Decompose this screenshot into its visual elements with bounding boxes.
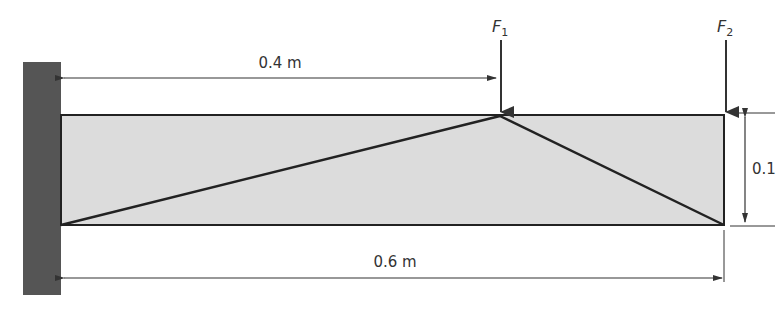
beam-diagram: 0.4 m 0.6 m 0.1 F1 F2 xyxy=(0,0,780,319)
force-f1-label: F1 xyxy=(492,17,508,39)
dimension-height: 0.1 xyxy=(730,113,776,226)
dimension-0-6m: 0.6 m xyxy=(64,230,724,282)
force-f1: F1 xyxy=(492,17,508,112)
force-f2: F2 xyxy=(717,17,733,112)
fixed-wall xyxy=(23,62,61,295)
dimension-label-0-4m: 0.4 m xyxy=(258,54,301,72)
dimension-label-0-6m: 0.6 m xyxy=(373,253,416,271)
beam xyxy=(61,115,724,225)
dimension-label-height: 0.1 xyxy=(752,160,776,178)
force-f2-label: F2 xyxy=(717,17,733,39)
dimension-0-4m: 0.4 m xyxy=(64,54,496,78)
